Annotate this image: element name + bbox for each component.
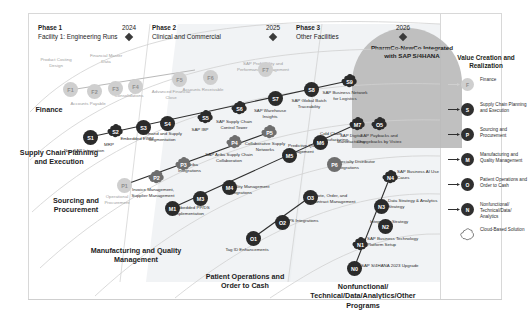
bottom-rule <box>28 299 502 300</box>
node-label-o3: Quote, Order, and Contract Management <box>312 193 362 204</box>
node-o3[interactable]: O3 <box>303 190 318 205</box>
node-n0[interactable]: N0 <box>347 261 362 276</box>
node-label-n1: SAP Business Technology Platform Setup <box>367 236 423 247</box>
node-n3[interactable]: N3 <box>374 199 389 214</box>
node-o1[interactable]: O1 <box>246 231 261 246</box>
node-label-f6: Accounts Receivable <box>182 87 224 93</box>
legend-label: Supply Chain Planning and Execution <box>480 102 528 114</box>
node-label-s2: MRP <box>92 142 126 148</box>
node-label-p6: Specialty Distributor Integrations <box>336 159 386 170</box>
year-2026: 2026 <box>390 24 416 31</box>
legend-label: Sourcing and Procurement <box>480 127 528 139</box>
node-f6[interactable]: F6 <box>203 70 218 85</box>
node-label-f3: Financial Master Data <box>85 53 127 64</box>
node-m1[interactable]: M1 <box>165 201 180 216</box>
legend-label: Patient Operations and Order to Cash <box>480 177 528 189</box>
legend-node-m: M <box>461 153 474 166</box>
node-m4[interactable]: M4 <box>222 180 237 195</box>
year-2025: 2025 <box>260 24 286 31</box>
node-n4[interactable]: N4 <box>383 170 398 185</box>
arrow-icon <box>448 183 460 186</box>
lane-nonfunctional: Nonfunctional/ Technical/Data/Analytics/… <box>300 282 426 310</box>
node-label-s9: SAP Business Network for Logistics <box>322 90 368 101</box>
node-label-n3: Data Strategy & Analytics Strategy <box>388 198 440 209</box>
node-s5[interactable]: S5 <box>198 110 213 125</box>
node-p6[interactable]: P6 <box>327 157 342 172</box>
node-f2[interactable]: F2 <box>87 84 102 99</box>
node-p5[interactable]: P5 <box>262 125 277 140</box>
node-o5[interactable]: O5 <box>372 117 387 132</box>
node-label-p2: Invoice Management, Supplier Management <box>126 187 180 198</box>
node-m5[interactable]: M5 <box>282 148 297 163</box>
legend-node-n: N <box>461 203 474 216</box>
node-m3[interactable]: M3 <box>193 191 208 206</box>
node-label-p5: Collaborative Supply Networks <box>241 141 289 152</box>
node-p4[interactable]: P4 <box>227 135 242 150</box>
legend-row-o: OPatient Operations and Order to Cash <box>447 178 527 200</box>
node-f7[interactable]: F7 <box>258 62 273 77</box>
legend-label: Cloud-Based Solution <box>480 227 528 233</box>
node-label-f2: Accounts Payable <box>67 101 109 107</box>
cloud-icon <box>459 227 476 243</box>
arrow-icon <box>448 208 460 211</box>
legend-row-m: MManufacturing and Quality Management <box>447 153 527 175</box>
legend-node-s: S <box>461 103 474 116</box>
legend-label: Nonfunctional/ Technical/Data/ Analytics <box>480 202 528 220</box>
legend-row-s: SSupply Chain Planning and Execution <box>447 103 527 125</box>
goal-label: PharmCo-NewCo Integrated with SAP S/4HAN… <box>366 44 458 60</box>
node-label-n4: SAP Business AI Use Cases <box>397 169 445 180</box>
legend-label: Manufacturing and Quality Management <box>480 152 528 164</box>
lane-patient-ops: Patient Operations and Order to Cash <box>205 272 285 291</box>
node-n1[interactable]: N1 <box>353 237 368 252</box>
node-s2[interactable]: S2 <box>108 124 123 139</box>
node-s4[interactable]: S4 <box>160 116 175 131</box>
node-s1[interactable]: S1 <box>83 130 98 145</box>
node-label-s6: SAP Supply Chain Control Tower <box>209 119 259 130</box>
phase-1-header: Phase 1 Facility 1: Engineering Runs <box>38 24 118 41</box>
node-f4[interactable]: F4 <box>128 79 143 94</box>
legend-node-p: P <box>461 128 474 141</box>
node-p3[interactable]: P3 <box>176 157 191 172</box>
legend-title: Value Creation and Realization <box>446 54 526 71</box>
legend-row-n: NNonfunctional/ Technical/Data/ Analytic… <box>447 203 527 225</box>
legend-label: Finance <box>480 77 528 83</box>
lane-manufacturing: Manufacturing and Quality Management <box>88 246 184 265</box>
node-f1[interactable]: F1 <box>63 82 78 97</box>
arrow-icon <box>448 133 460 136</box>
node-label-p4: SAP Ariba Supply Chain Collaboration <box>203 152 255 163</box>
legend-node-f: F <box>461 78 474 91</box>
node-n2[interactable]: N2 <box>378 219 393 234</box>
legend-row-cloud: Cloud-Based Solution <box>447 228 527 250</box>
node-label-s7: SAP Warehouse Insights <box>248 108 292 119</box>
node-label-n0: SAP S/4HANA 2023 Upgrade <box>361 263 423 269</box>
node-label-m1: Embedded PP/DS Implementation <box>174 205 224 216</box>
year-2024: 2024 <box>116 24 142 31</box>
node-s6[interactable]: S6 <box>232 101 247 116</box>
node-label-s1: Non-SAP Integration <box>62 148 106 154</box>
node-f3[interactable]: F3 <box>108 81 123 96</box>
node-m7[interactable]: M7 <box>350 117 365 132</box>
node-label-f1: Product Costing Design <box>35 57 77 68</box>
phase-2-header: Phase 2 Clinical and Commercial <box>152 24 221 41</box>
node-o2[interactable]: O2 <box>275 215 290 230</box>
node-label-o1: Tag ID Enhancements <box>225 247 269 253</box>
node-p1[interactable]: P1 <box>117 178 132 193</box>
node-label-o2: GPS Integrations <box>285 218 327 224</box>
node-f5[interactable]: F5 <box>172 72 187 87</box>
arrow-icon <box>448 83 460 86</box>
node-s8[interactable]: S8 <box>304 82 319 97</box>
node-s3[interactable]: S3 <box>136 120 151 135</box>
node-m6[interactable]: M6 <box>313 135 328 150</box>
arrow-icon <box>448 108 460 111</box>
legend-node-o: O <box>461 178 474 191</box>
node-s7[interactable]: S7 <box>268 91 283 106</box>
roadmap-diagram: PharmCo-NewCo Integrated with SAP S/4HAN… <box>0 0 531 320</box>
node-p2[interactable]: P2 <box>149 170 164 185</box>
node-label-o5: SAP Paybacks and Chargebacks by Vistex <box>355 133 403 144</box>
arrow-icon <box>448 158 460 161</box>
legend-row-f: FFinance <box>447 78 527 100</box>
node-s9[interactable]: S9 <box>342 74 357 89</box>
legend-row-p: PSourcing and Procurement <box>447 128 527 150</box>
phase-3-header: Phase 3 Other Facilities <box>296 24 339 41</box>
